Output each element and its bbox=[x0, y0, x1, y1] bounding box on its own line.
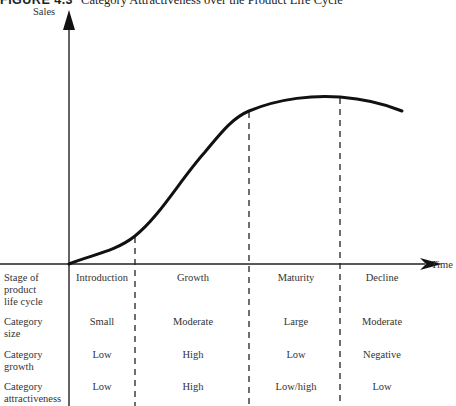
row-label-line: size bbox=[4, 328, 70, 340]
cell-growth-size: Moderate bbox=[138, 316, 248, 328]
y-axis-label: Sales bbox=[33, 6, 55, 18]
cell-decline-size: Moderate bbox=[327, 316, 437, 328]
y-axis-arrow-icon bbox=[63, 10, 75, 30]
life-cycle-chart bbox=[0, 0, 456, 406]
row-label-line: attractiveness bbox=[4, 393, 70, 405]
row-label-line: life cycle bbox=[4, 296, 70, 308]
x-axis-label: Time bbox=[431, 259, 453, 271]
cell-decline-stage: Decline bbox=[327, 272, 437, 284]
cell-decline-attractiveness: Low bbox=[327, 381, 437, 393]
cell-growth-growth: High bbox=[138, 349, 248, 361]
cell-growth-attractiveness: High bbox=[138, 381, 248, 393]
sales-curve bbox=[69, 96, 402, 264]
row-label-line: product bbox=[4, 284, 70, 296]
cell-growth-stage: Growth bbox=[138, 272, 248, 284]
cell-decline-growth: Negative bbox=[327, 349, 437, 361]
row-label-line: growth bbox=[4, 361, 70, 373]
